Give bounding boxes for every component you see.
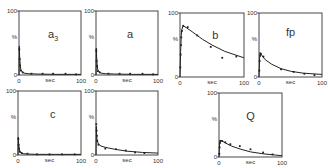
data-point	[250, 148, 252, 150]
plot-frame	[18, 91, 81, 155]
x-axis-label: sec	[207, 79, 216, 85]
data-point	[181, 30, 183, 32]
panel-fp: 01000100sec%fp	[247, 10, 328, 86]
panel-a: 01000100sec%a	[84, 8, 164, 84]
x-tick-label: 100	[76, 78, 87, 84]
y-tick-label: 100	[207, 90, 218, 96]
x-tick-label: 100	[239, 80, 250, 86]
data-point	[129, 73, 131, 75]
data-point	[19, 58, 21, 60]
data-point	[65, 73, 67, 75]
panel-c: 01000100sec%c	[6, 88, 87, 164]
x-tick-label: 0	[16, 158, 20, 164]
y-axis-label: %	[89, 114, 95, 120]
figure-panels: 01000100sec%a301000100sec%a01000100sec%b…	[0, 0, 328, 168]
x-tick-label: 0	[178, 80, 182, 86]
data-point	[99, 72, 101, 74]
x-axis-label: sec	[45, 77, 54, 83]
x-tick-label: 100	[153, 78, 164, 84]
x-axis-label: sec	[246, 159, 255, 165]
x-tick-label: 100	[317, 80, 328, 86]
y-axis-label: %	[11, 114, 17, 120]
plot-frame	[96, 91, 158, 155]
plot-frame	[219, 93, 282, 157]
data-point	[52, 73, 54, 75]
data-point	[314, 74, 316, 76]
x-axis-label: sec	[122, 157, 131, 163]
data-point	[17, 138, 19, 140]
data-point	[218, 153, 220, 155]
data-point	[125, 150, 127, 152]
panel-b: 01000100sec%b	[168, 10, 250, 86]
y-tick-label: 100	[168, 10, 179, 16]
x-tick-label: 0	[94, 158, 98, 164]
data-point	[142, 73, 144, 75]
data-point	[18, 148, 20, 150]
data-point	[18, 49, 20, 51]
data-point	[280, 68, 282, 70]
data-point	[18, 144, 20, 146]
panel-unlabeled: 01000100sec%	[84, 88, 164, 164]
plot-frame	[96, 11, 158, 75]
data-point	[196, 35, 198, 37]
fit-curve	[259, 53, 322, 77]
y-tick-label: 100	[7, 8, 18, 14]
data-point	[61, 153, 63, 155]
data-point	[96, 60, 98, 62]
data-point	[42, 73, 44, 75]
data-point	[179, 67, 181, 69]
data-point	[263, 56, 265, 58]
data-point	[97, 70, 99, 72]
data-point	[104, 148, 106, 150]
data-point	[21, 152, 23, 154]
panel-label: a	[127, 28, 134, 40]
x-tick-label: 100	[153, 158, 164, 164]
data-point	[96, 140, 98, 142]
data-point	[262, 152, 264, 154]
panel-label-subscript: 3	[54, 35, 58, 42]
y-axis-label: %	[12, 34, 18, 40]
panel-label: b	[212, 29, 218, 41]
data-point	[75, 73, 77, 75]
x-axis-label: sec	[122, 77, 131, 83]
data-point	[272, 154, 274, 156]
data-point	[293, 71, 295, 73]
data-point	[260, 53, 262, 55]
data-point	[119, 73, 121, 75]
panel-label: c	[50, 108, 56, 120]
y-axis-label: %	[173, 36, 179, 42]
x-tick-label: 100	[277, 160, 288, 166]
data-point	[95, 50, 97, 52]
data-point	[98, 144, 100, 146]
data-point	[235, 56, 237, 58]
data-point	[36, 153, 38, 155]
x-axis-label: sec	[286, 79, 295, 85]
data-point	[134, 152, 136, 154]
data-point	[219, 140, 221, 142]
data-point	[182, 25, 184, 27]
data-point	[115, 148, 117, 150]
x-tick-label: 0	[257, 80, 261, 86]
data-point	[96, 130, 98, 132]
y-axis-label: %	[212, 116, 218, 122]
y-tick-label: 100	[6, 88, 17, 94]
data-point	[74, 153, 76, 155]
fit-curve	[96, 48, 158, 75]
data-point	[239, 145, 241, 147]
data-point	[224, 141, 226, 143]
data-point	[96, 65, 98, 67]
fit-curve	[96, 126, 158, 155]
data-point	[27, 153, 29, 155]
y-axis-label: %	[252, 36, 258, 42]
x-tick-label: 0	[217, 160, 221, 166]
panel-a3: 01000100sec%a3	[7, 8, 87, 84]
data-point	[259, 60, 261, 62]
data-point	[258, 70, 260, 72]
data-point	[19, 151, 21, 153]
data-point	[229, 143, 231, 145]
data-point	[96, 135, 98, 137]
fit-curve	[18, 137, 81, 155]
data-point	[180, 36, 182, 38]
x-axis-label: sec	[45, 157, 54, 163]
data-point	[22, 72, 24, 74]
